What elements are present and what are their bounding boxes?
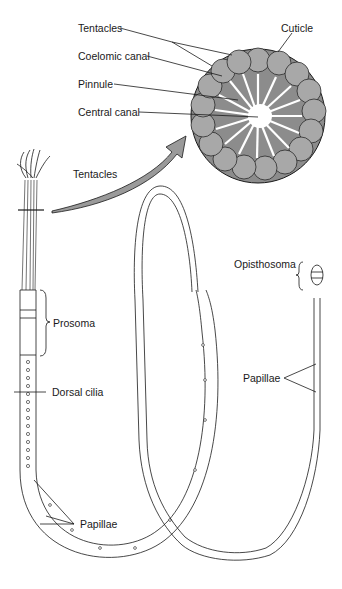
tentacle-cross-section — [191, 48, 326, 183]
label-prosoma: Prosoma — [53, 317, 95, 329]
label-pinnule: Pinnule — [78, 78, 113, 90]
label-cuticle: Cuticle — [281, 22, 313, 34]
label-coelomic-canal: Coelomic canal — [78, 50, 150, 62]
label-body-tentacles: Tentacles — [73, 168, 117, 180]
label-opisthosoma: Opisthosoma — [234, 258, 296, 270]
anatomy-illustration — [0, 0, 342, 589]
label-papillae-right: Papillae — [243, 372, 280, 384]
label-cross-tentacles: Tentacles — [78, 22, 122, 34]
label-papillae-left: Papillae — [80, 518, 117, 530]
label-dorsal-cilia: Dorsal cilia — [52, 386, 103, 398]
label-central-canal: Central canal — [78, 106, 140, 118]
